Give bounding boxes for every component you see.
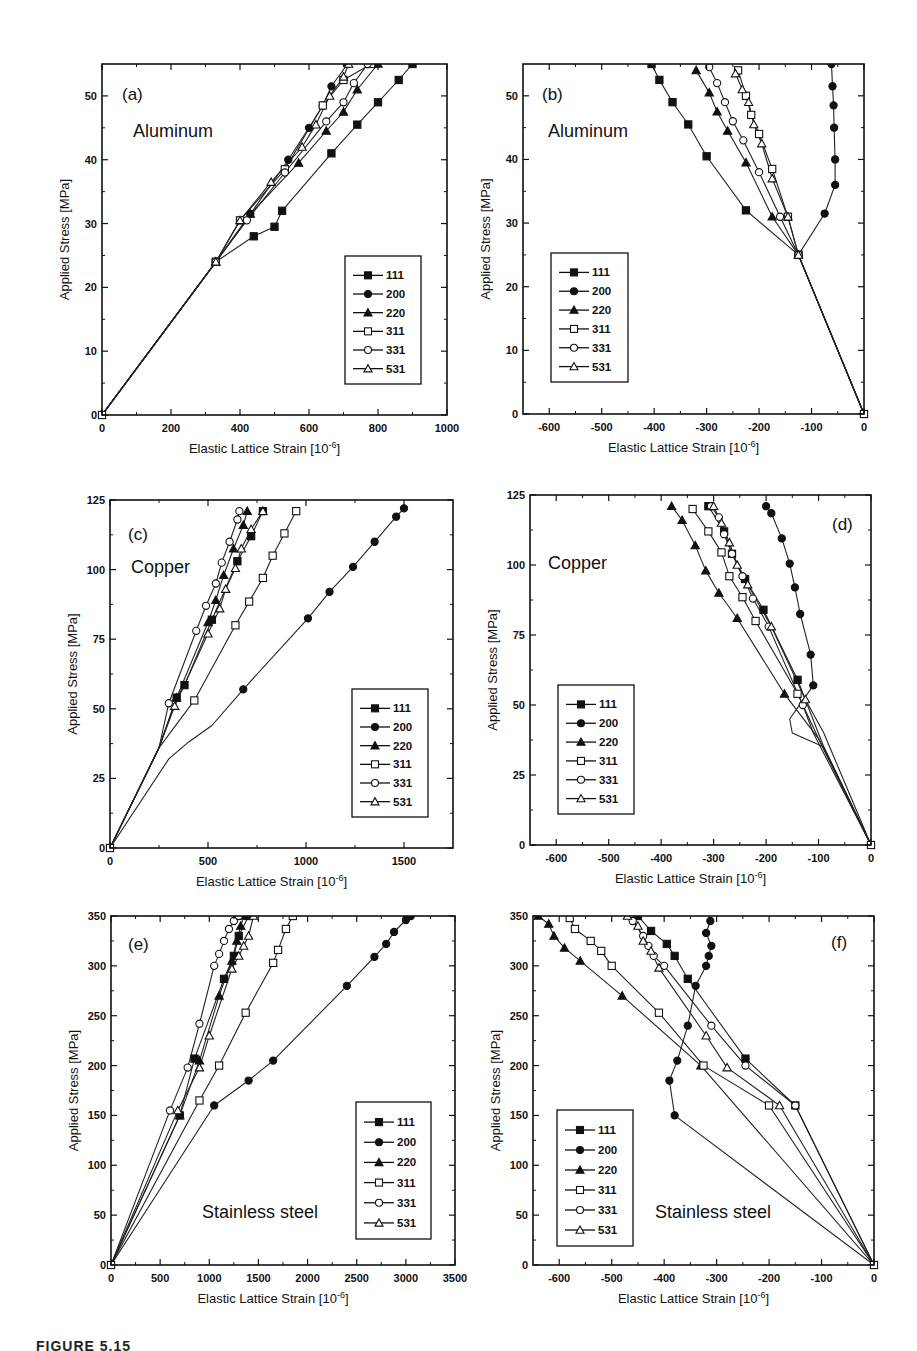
y-tick-label: 350 <box>88 910 106 922</box>
x-tick-label: -300 <box>706 1272 728 1284</box>
x-tick-label: -100 <box>801 421 823 433</box>
y-tick-label: 25 <box>93 772 105 784</box>
x-tick-label: 0 <box>107 855 113 867</box>
square-marker <box>196 1097 203 1104</box>
material-label: Copper <box>131 557 190 577</box>
circle-marker <box>578 776 585 783</box>
chart-panel-c: 0500100015000255075100125Elastic Lattice… <box>65 494 453 889</box>
square-marker <box>752 617 759 624</box>
square-marker <box>689 505 696 512</box>
y-tick-label: 0 <box>519 839 525 851</box>
circle-marker <box>742 1062 749 1069</box>
y-axis-label: Applied Stress [MPa] <box>485 609 500 730</box>
y-tick-label: 75 <box>93 633 105 645</box>
legend-label: 111 <box>393 702 412 714</box>
circle-marker <box>740 137 747 144</box>
triangle-marker <box>702 1032 710 1039</box>
y-tick-label: 40 <box>85 154 97 166</box>
y-tick-label: 0 <box>99 842 105 854</box>
panel-label: (c) <box>128 525 148 544</box>
circle-marker <box>577 1207 584 1214</box>
y-axis-label: Applied Stress [MPa] <box>57 179 72 300</box>
legend-label: 220 <box>592 304 611 316</box>
triangle-marker <box>244 932 252 939</box>
y-tick-label: 125 <box>87 494 105 506</box>
circle-marker <box>721 99 728 106</box>
circle-marker <box>216 950 223 957</box>
circle-marker <box>832 156 839 163</box>
circle-marker <box>749 595 756 602</box>
square-marker <box>755 130 762 137</box>
square-marker <box>395 76 402 83</box>
legend-label: 200 <box>386 288 405 300</box>
circle-marker <box>708 1022 715 1029</box>
square-marker <box>718 549 725 556</box>
chart-panel-a: 0200400600800100001020304050Elastic Latt… <box>57 60 459 456</box>
circle-marker <box>792 1102 799 1109</box>
circle-marker <box>193 627 200 634</box>
square-marker <box>242 1009 249 1016</box>
circle-marker <box>708 942 715 949</box>
circle-marker <box>371 953 378 960</box>
triangle-marker <box>692 66 700 73</box>
x-axis-label: Elastic Lattice Strain [10-6] <box>618 1290 769 1306</box>
series-line-531 <box>102 64 349 415</box>
square-marker <box>234 558 241 565</box>
square-marker <box>671 952 678 959</box>
y-tick-label: 50 <box>93 703 105 715</box>
x-tick-label: -200 <box>748 421 770 433</box>
y-tick-label: 0 <box>522 1259 528 1271</box>
x-tick-label: 600 <box>300 422 318 434</box>
square-marker <box>571 925 578 932</box>
square-marker <box>760 606 767 613</box>
x-tick-label: 0 <box>108 1272 114 1284</box>
triangle-marker <box>733 614 741 621</box>
series-line-220 <box>672 506 871 845</box>
circle-marker <box>577 1147 584 1154</box>
circle-marker <box>762 503 769 510</box>
series-line-311 <box>738 70 864 414</box>
circle-marker <box>202 602 209 609</box>
material-label: Stainless steel <box>202 1202 318 1222</box>
legend-label: 331 <box>397 1197 417 1209</box>
triangle-marker <box>780 690 788 697</box>
circle-marker <box>220 937 227 944</box>
circle-marker <box>830 102 837 109</box>
x-tick-label: -400 <box>650 852 672 864</box>
legend-label: 311 <box>598 1184 617 1196</box>
y-axis-label: Applied Stress [MPa] <box>66 1030 81 1151</box>
square-marker <box>365 272 372 279</box>
square-marker <box>598 947 605 954</box>
y-tick-label: 250 <box>88 1010 106 1022</box>
square-marker <box>270 959 277 966</box>
triangle-marker <box>668 502 676 509</box>
circle-marker <box>390 928 397 935</box>
x-tick-label: -600 <box>548 1272 570 1284</box>
y-axis-label: Applied Stress [MPa] <box>65 613 80 734</box>
square-marker <box>739 594 746 601</box>
circle-marker <box>786 560 793 567</box>
circle-marker <box>703 962 710 969</box>
circle-marker <box>830 124 837 131</box>
legend: 111200220311331531 <box>558 685 634 814</box>
circle-marker <box>212 580 219 587</box>
x-tick-label: -200 <box>758 1272 780 1284</box>
square-marker <box>328 150 335 157</box>
panel-label: (e) <box>128 935 149 954</box>
square-marker <box>684 975 691 982</box>
y-tick-label: 30 <box>506 217 518 229</box>
y-tick-label: 50 <box>506 90 518 102</box>
square-marker <box>181 682 188 689</box>
legend-label: 311 <box>599 755 618 767</box>
x-axis-label: Elastic Lattice Strain [10-6] <box>615 870 766 886</box>
series-line-531 <box>714 506 871 845</box>
legend: 111200220311331531 <box>557 1110 633 1246</box>
circle-marker <box>365 291 372 298</box>
series-line-200 <box>102 64 348 415</box>
circle-marker <box>285 156 292 163</box>
triangle-marker <box>691 541 699 548</box>
legend-label: 311 <box>393 758 412 770</box>
series-line-311 <box>693 509 871 845</box>
legend-label: 331 <box>386 344 406 356</box>
square-marker <box>274 946 281 953</box>
